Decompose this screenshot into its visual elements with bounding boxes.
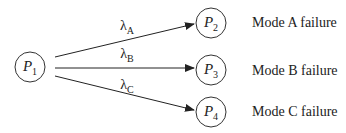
mode-b-label: Mode B failure [252,63,338,79]
rate-b-label: λB [120,46,133,64]
node-p4-label: P4 [204,103,218,122]
node-p2-label: P2 [204,14,218,33]
node-p3-label: P3 [204,61,218,80]
node-p1-label: P1 [23,58,37,77]
rate-a-label: λA [120,18,134,36]
mode-c-label: Mode C failure [252,104,338,120]
mode-a-label: Mode A failure [252,15,337,31]
rate-c-label: λC [120,77,133,95]
